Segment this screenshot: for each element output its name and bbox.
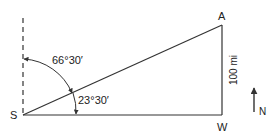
angle-arc-23-30 <box>73 93 76 114</box>
angle-label-66-30: 66°30′ <box>52 54 83 66</box>
hypotenuse-s-to-a <box>23 25 222 115</box>
triangle-diagram: 66°30′ 23°30′ S A W 100 mi N <box>0 0 279 139</box>
point-label-a: A <box>218 10 226 22</box>
point-label-w: W <box>217 121 228 133</box>
point-label-s: S <box>10 109 17 121</box>
angle-label-23-30: 23°30′ <box>78 94 109 106</box>
north-label: N <box>259 106 266 117</box>
side-length-label: 100 mi <box>228 55 239 85</box>
